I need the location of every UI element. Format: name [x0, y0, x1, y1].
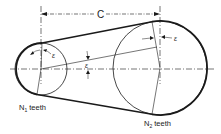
large-angle-arrow-left-icon — [150, 36, 154, 40]
small-angle-arrow-left-icon — [30, 51, 34, 55]
small-angle-arrow-right-icon — [43, 49, 47, 52]
large-pulley-angle-label: ε — [174, 35, 178, 42]
large-angle-leader-left — [142, 38, 151, 39]
large-pulley-suffix: teeth — [152, 119, 171, 128]
belt-drive-diagram: C ε ε ε — [0, 0, 221, 134]
dimension-arrow-left-icon — [41, 12, 47, 16]
middle-angle-arrow-up-icon — [86, 70, 90, 74]
belt-upper-span — [42, 22, 152, 43]
middle-angle-label: ε — [85, 62, 89, 69]
large-pulley-belt-wrap — [152, 21, 207, 115]
large-pulley-teeth-label: N2 teeth — [144, 119, 171, 129]
small-pulley-radius-bottom — [37, 69, 41, 95]
large-pulley-radius-top — [152, 22, 160, 68]
center-distance-label: C — [97, 9, 104, 20]
parallel-reference-line — [41, 47, 157, 69]
small-pulley-teeth-label: N1 teeth — [19, 103, 46, 113]
large-angle-arrow-right-icon — [161, 35, 165, 39]
diagram-canvas: C ε ε ε — [0, 0, 221, 134]
belt-lower-span — [37, 95, 152, 115]
middle-angle-arrow-down-icon — [86, 56, 90, 60]
small-pulley-suffix: teeth — [27, 103, 46, 112]
small-pulley-angle-label: ε — [52, 52, 56, 59]
large-pulley-radius-bottom — [152, 68, 160, 114]
dimension-arrow-right-icon — [154, 12, 160, 16]
